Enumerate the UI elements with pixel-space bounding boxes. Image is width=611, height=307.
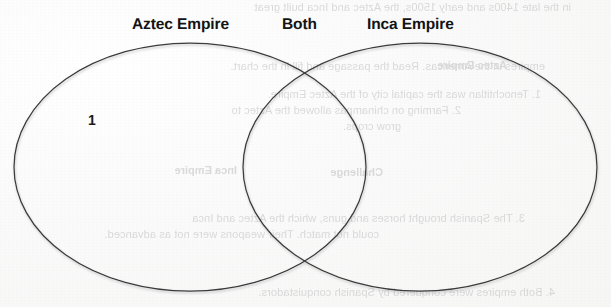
venn-diagram <box>0 0 611 307</box>
answer-entry-left-1: 1 <box>88 112 96 128</box>
venn-circle-left <box>14 43 366 291</box>
venn-circle-right <box>243 43 597 291</box>
